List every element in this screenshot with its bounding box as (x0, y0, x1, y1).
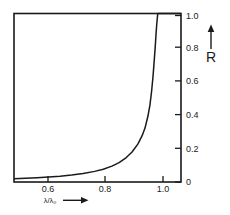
y-tick-label-2: 0.4 (186, 110, 199, 120)
x-tick-label-1: 0.8 (99, 184, 112, 194)
y-tick-label-3: 0.6 (186, 76, 199, 86)
x-tick-label-2: 1.0 (157, 184, 170, 194)
y-axis-title: R (206, 49, 216, 65)
y-tick-label-5: 1.0 (186, 11, 199, 21)
y-tick-label-1: 0.2 (186, 144, 199, 154)
x-axis-title-text: λ/λ₀ (44, 196, 57, 205)
x-tick-label-0: 0.6 (42, 184, 55, 194)
reflectance-vs-wavelength-chart: 0.6 0.8 1.0 0 0.2 0.4 0.6 0.8 1.0 R λ/λ₀ (0, 0, 230, 215)
y-tick-label-0: 0 (186, 177, 191, 187)
x-axis-title: λ/λ₀ (44, 196, 57, 205)
y-tick-label-4: 0.8 (186, 43, 199, 53)
